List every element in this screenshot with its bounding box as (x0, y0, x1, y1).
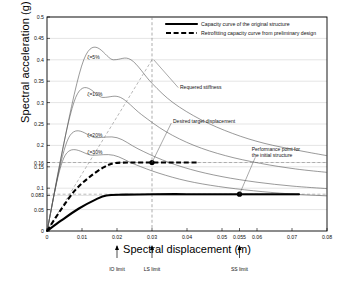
legend-label: Capacity curve of the original structure (201, 21, 290, 27)
capacity-curve-retrofit (47, 162, 198, 231)
x-tick-label: 0.04 (176, 234, 198, 240)
annotation-line: the initial structure (252, 152, 300, 158)
y-tick-label: 0.25 (8, 121, 44, 127)
limit-label: IO limit (97, 266, 137, 272)
y-tick-label: 0.35 (8, 78, 44, 84)
damping-ratio-label: ζ=20% (87, 132, 102, 138)
y-tick-label: 0.2 (8, 142, 44, 148)
y-tick-label: 0.45 (8, 35, 44, 41)
x-tick-label: 0 (36, 234, 58, 240)
y-tick-label: 0.5 (8, 14, 44, 20)
annotation-performance-point-initial: Performance point forthe initial structu… (252, 146, 300, 159)
annotation-desired-target-displacement: Desired target displacement (173, 118, 235, 124)
x-tick-label: 0.02 (106, 234, 128, 240)
y-tick-label: 0.4 (8, 57, 44, 63)
limit-label: SS limit (220, 266, 260, 272)
annotation-leader-line (240, 157, 256, 194)
x-axis-title: Spectral displacement (m) (47, 243, 327, 255)
annotation-leader-line (154, 60, 179, 88)
annotation-required-stiffness: Requered stiffness (180, 84, 222, 90)
damping-ratio-label: ζ=30% (87, 149, 102, 155)
y-tick-label: 0.1 (8, 185, 44, 191)
x-tick-label: 0.06 (246, 234, 268, 240)
x-tick-label: 0.01 (71, 234, 93, 240)
capacity-spectrum-chart: Spectral acceleration (g) Spectral displ… (0, 0, 337, 290)
y-tick-label: 0.3 (8, 100, 44, 106)
limit-label: LS limit (132, 266, 172, 272)
damping-ratio-label: ζ=10% (87, 91, 102, 97)
legend-label: Retrofitting capacity curve from prelimi… (201, 30, 316, 36)
capacity-curve-original (47, 194, 299, 231)
y-tick-label: 0.16 (8, 160, 44, 166)
y-tick-label: 0.083 (8, 192, 44, 198)
x-tick-label: 0.03 (141, 234, 163, 240)
y-tick-label: 0.05 (8, 207, 44, 213)
damping-ratio-label: ζ=5% (87, 54, 99, 60)
annotation-line: Performance point for (252, 146, 300, 152)
x-tick-label: 0.07 (281, 234, 303, 240)
x-tick-label: 0.08 (316, 234, 337, 240)
